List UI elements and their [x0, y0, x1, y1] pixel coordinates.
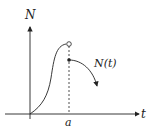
rising-curve: [30, 44, 66, 114]
falling-curve: [69, 60, 97, 86]
open-circle-endpoint: [67, 42, 72, 47]
x-axis-label: t: [141, 107, 146, 121]
curve-label: N(t): [93, 57, 117, 70]
y-axis-label: N: [24, 8, 36, 22]
x-tick-label-a: a: [65, 116, 72, 129]
discontinuity-diagram: N t a N(t): [0, 0, 147, 136]
